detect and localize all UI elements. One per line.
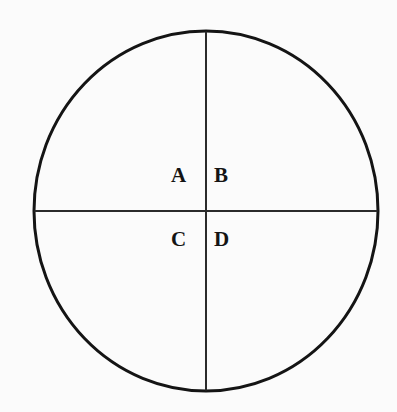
quadrant-label-d: D (214, 229, 229, 250)
quadrant-label-c: C (171, 229, 186, 250)
circle-diagram-svg (0, 0, 397, 412)
quadrant-label-b: B (214, 165, 228, 186)
figure-canvas: A B C D (0, 0, 397, 412)
quadrant-label-a: A (171, 165, 186, 186)
